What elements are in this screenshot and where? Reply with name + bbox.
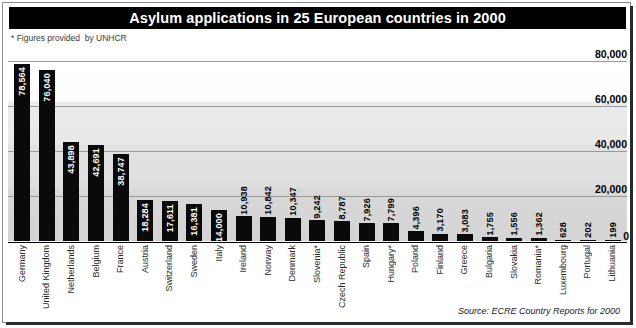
bar-slot: 43,898 [59, 61, 84, 241]
bar-slot: 76,040 [35, 61, 60, 241]
bar[interactable]: 38,747 [113, 154, 129, 241]
bar-value-label: 18,284 [140, 203, 150, 232]
x-axis-category-label: Luxembourg [559, 245, 568, 295]
bar-slot: 42,691 [84, 61, 109, 241]
chart-title-bar: Asylum applications in 25 European count… [9, 7, 626, 29]
plot-area: 020,00040,00060,00080,000 78,56476,04043… [8, 61, 627, 241]
bar-value-label: 3,083 [460, 209, 470, 233]
chart-figure: Asylum applications in 25 European count… [0, 0, 636, 328]
bar-slot: 3,083 [453, 61, 478, 241]
bar[interactable]: 7,799 [383, 223, 399, 241]
category-slot: Norway [256, 243, 281, 308]
bar[interactable]: 16,381 [186, 204, 202, 241]
bar-slot: 8,787 [330, 61, 355, 241]
x-axis-category-label: Spain [362, 245, 371, 268]
x-axis-category-label: Italy [215, 245, 224, 262]
category-slot: Ireland [231, 243, 256, 308]
bar-slot: 16,381 [182, 61, 207, 241]
category-slot: Finland [428, 243, 453, 308]
x-axis-category-label: Hungary* [387, 245, 396, 283]
bar-slot: 38,747 [108, 61, 133, 241]
bar-value-label: 202 [583, 222, 593, 238]
bar[interactable]: 3,083 [457, 234, 473, 241]
bar-value-label: 1,362 [534, 212, 544, 236]
x-axis-category-label: France [116, 245, 125, 273]
page-title: Asylum applications in 25 European count… [129, 10, 506, 26]
category-slot: Switzerland [158, 243, 183, 308]
bar-slot: 17,611 [158, 61, 183, 241]
bar-slot: 78,564 [10, 61, 35, 241]
bar[interactable]: 4,396 [408, 231, 424, 241]
bar-slot: 1,362 [526, 61, 551, 241]
bar-slot: 1,556 [502, 61, 527, 241]
x-axis-category-label: Norway [264, 245, 273, 276]
bar-slot: 199 [600, 61, 625, 241]
x-axis-category-label: Belgium [92, 245, 101, 278]
category-slot: Greece [453, 243, 478, 308]
bar[interactable]: 8,787 [334, 221, 350, 241]
x-axis-category-label: Poland [411, 245, 420, 273]
x-axis-category-label: Ireland [239, 245, 248, 273]
bar[interactable]: 1,556 [506, 238, 522, 242]
bar[interactable]: 9,242 [309, 220, 325, 241]
category-slot: France [108, 243, 133, 308]
category-slot: Slovakia [502, 243, 527, 308]
bar-value-label: 43,898 [66, 145, 76, 174]
plot-panel: 020,00040,00060,00080,000 78,56476,04043… [8, 61, 627, 241]
bar[interactable]: 78,564 [14, 64, 30, 241]
bar[interactable]: 17,611 [162, 201, 178, 241]
bar-slot: 10,842 [256, 61, 281, 241]
bar[interactable]: 42,691 [88, 145, 104, 241]
bar[interactable]: 7,926 [359, 223, 375, 241]
x-axis-category-label: Slovakia [510, 245, 519, 279]
bar[interactable]: 18,284 [137, 200, 153, 241]
bar-value-label: 17,611 [165, 204, 175, 232]
bar[interactable]: 43,898 [63, 142, 79, 241]
category-slot: Slovenia* [305, 243, 330, 308]
category-slot: Denmark [281, 243, 306, 308]
bar[interactable]: 10,842 [260, 217, 276, 241]
bar-slot: 10,347 [281, 61, 306, 241]
bar-value-label: 628 [558, 222, 568, 238]
category-slot: Romania* [526, 243, 551, 308]
category-slot: Sweden [182, 243, 207, 308]
x-axis-category-label: Slovenia* [313, 245, 322, 283]
bar-value-label: 199 [608, 222, 618, 238]
x-axis-category-label: Denmark [288, 245, 297, 282]
y-axis-tick-label: 80,000 [595, 48, 629, 60]
bar[interactable]: 10,347 [285, 218, 301, 241]
bar-value-label: 1,556 [509, 212, 519, 236]
bar-slot: 10,938 [231, 61, 256, 241]
x-axis-category-label: Portugal [583, 245, 592, 279]
bar[interactable]: 76,040 [39, 70, 55, 241]
bar-value-label: 8,787 [337, 196, 347, 220]
bar-slot: 7,799 [379, 61, 404, 241]
bar[interactable]: 14,000 [211, 210, 227, 242]
x-axis-category-label: United Kingdom [42, 245, 51, 309]
bar-slot: 18,284 [133, 61, 158, 241]
category-slot: Czech Republic [330, 243, 355, 308]
bar-slot: 4,396 [404, 61, 429, 241]
x-axis-category-label: Greece [460, 245, 469, 275]
bar-slot: 628 [551, 61, 576, 241]
bar-value-label: 42,691 [91, 148, 101, 177]
bar-slot: 3,170 [428, 61, 453, 241]
bar-slot: 9,242 [305, 61, 330, 241]
bar[interactable]: 1,755 [482, 237, 498, 241]
bar[interactable]: 199 [605, 240, 621, 242]
x-axis-category-label: Romania* [534, 245, 543, 285]
bar-value-label: 78,564 [17, 67, 27, 96]
bar-value-label: 38,747 [116, 157, 126, 186]
bar-value-label: 16,381 [189, 207, 199, 236]
bar[interactable]: 628 [555, 240, 571, 242]
bar-value-label: 76,040 [42, 73, 52, 102]
chart-frame: Asylum applications in 25 European count… [2, 2, 631, 323]
bar-value-label: 14,000 [214, 213, 224, 242]
bar[interactable]: 3,170 [432, 234, 448, 241]
category-slot: Belgium [84, 243, 109, 308]
bar[interactable]: 10,938 [236, 216, 252, 241]
category-slot: Italy [207, 243, 232, 308]
category-slot: Portugal [576, 243, 601, 308]
bar[interactable]: 1,362 [531, 238, 547, 241]
bar[interactable]: 202 [580, 240, 596, 242]
